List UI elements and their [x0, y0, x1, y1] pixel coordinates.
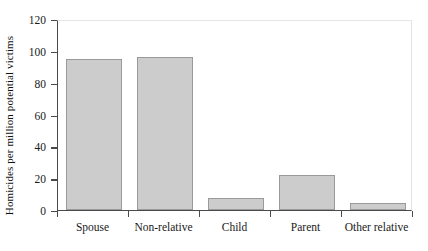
- y-axis-tick-label: 20: [35, 171, 47, 187]
- x-axis-tick-label: Non-relative: [134, 219, 192, 235]
- bar: [137, 57, 193, 210]
- bar-chart: Homicides per million potential victims …: [0, 0, 428, 251]
- y-axis-tick: 100: [0, 52, 57, 53]
- plot-area: [57, 20, 412, 211]
- x-axis-tick-mark: [341, 211, 342, 217]
- x-axis-tick-mark: [199, 211, 200, 217]
- y-axis-tick-label: 60: [35, 108, 47, 124]
- y-axis-tick: 0: [0, 211, 57, 212]
- bar: [208, 198, 264, 210]
- x-axis-tick-label: Spouse: [76, 219, 109, 235]
- bar: [279, 175, 335, 210]
- x-axis-tick-mark: [57, 211, 58, 217]
- y-axis-tick-label: 80: [35, 76, 47, 92]
- x-axis-tick-mark: [270, 211, 271, 217]
- x-axis-tick-mark: [128, 211, 129, 217]
- x-axis-tick-label: Child: [222, 219, 248, 235]
- x-axis-tick-label: Parent: [291, 219, 320, 235]
- x-axis-tick-mark: [412, 211, 413, 217]
- bar: [66, 59, 122, 210]
- y-axis-tick-label: 0: [40, 203, 46, 219]
- y-axis-tick-label: 120: [29, 12, 46, 28]
- x-axis-tick-label: Other relative: [345, 219, 409, 235]
- y-axis-title: Homicides per million potential victims: [0, 0, 18, 251]
- y-axis-tick-label: 100: [29, 44, 46, 60]
- y-axis-tick: 40: [0, 147, 57, 148]
- y-axis-tick: 80: [0, 84, 57, 85]
- y-axis-tick: 20: [0, 179, 57, 180]
- y-axis-tick-label: 40: [35, 139, 47, 155]
- y-axis-tick: 120: [0, 20, 57, 21]
- y-axis-tick: 60: [0, 116, 57, 117]
- bar: [350, 203, 406, 210]
